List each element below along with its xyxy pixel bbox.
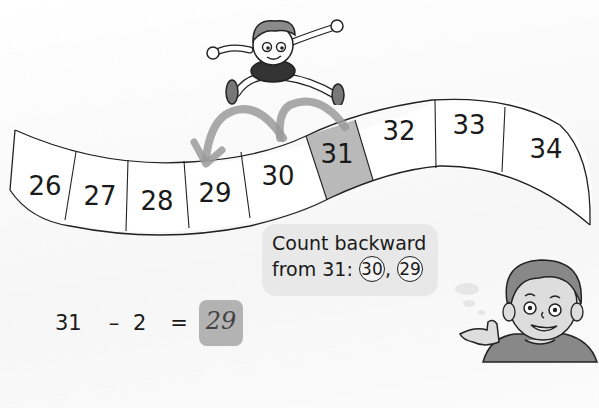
bubble-line-1: Count backward <box>272 232 426 254</box>
cell-32: 32 <box>382 116 415 146</box>
equation-subtrahend: 2 <box>133 311 159 335</box>
answer-box: 29 <box>199 300 243 346</box>
cell-26: 26 <box>28 171 61 201</box>
number-line: 26 27 28 29 30 31 32 33 34 <box>0 0 599 260</box>
circled-number-30: 30 <box>359 256 385 282</box>
cell-34: 34 <box>529 134 562 164</box>
equation-operator: – <box>95 311 133 335</box>
cell-28: 28 <box>140 186 173 216</box>
equation-minuend: 31 <box>55 311 95 335</box>
thinking-boy-illustration <box>455 252 599 364</box>
cell-27: 27 <box>83 181 116 211</box>
bubble-separator: , <box>385 258 391 280</box>
equation: 31 – 2 = 29 <box>55 300 243 346</box>
bubble-prefix: from 31: <box>272 258 353 280</box>
bubble-line-2: from 31: 30, 29 <box>272 258 423 282</box>
number-line-lesson: 26 27 28 29 30 31 32 33 34 Count backwar… <box>0 0 599 408</box>
equation-equals: = <box>159 311 199 335</box>
cell-29: 29 <box>198 178 231 208</box>
speech-bubble: Count backward from 31: 30, 29 <box>262 224 438 296</box>
cell-31: 31 <box>320 139 353 169</box>
cell-33: 33 <box>452 110 485 140</box>
circled-number-29: 29 <box>397 256 423 282</box>
cell-30: 30 <box>261 161 294 191</box>
